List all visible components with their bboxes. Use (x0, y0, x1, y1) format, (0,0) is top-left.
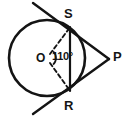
label-point-r: R (64, 99, 73, 112)
label-point-s: S (64, 7, 73, 20)
geometry-figure: S R P O 110° (0, 0, 131, 120)
radius-or-dashed (50, 63, 68, 88)
label-point-p: P (113, 50, 122, 63)
label-central-angle: 110° (52, 51, 73, 62)
label-center-o: O (36, 52, 45, 64)
